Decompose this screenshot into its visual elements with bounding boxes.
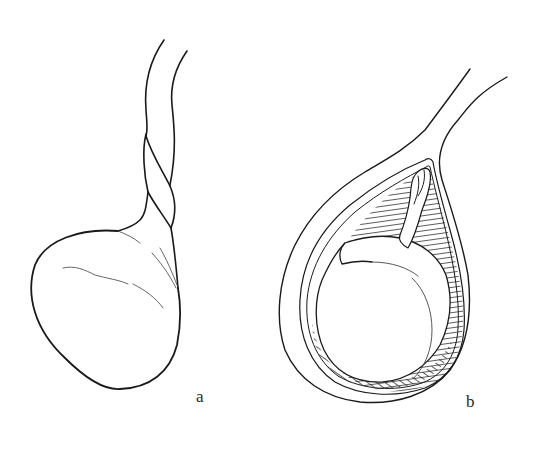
panel-b-drawing [279,69,507,403]
panel-label-a: a [196,388,204,405]
line-drawing [0,0,536,475]
panel-label-b: b [466,393,475,410]
illustration: a b [0,0,536,475]
panel-a-drawing [31,40,187,389]
